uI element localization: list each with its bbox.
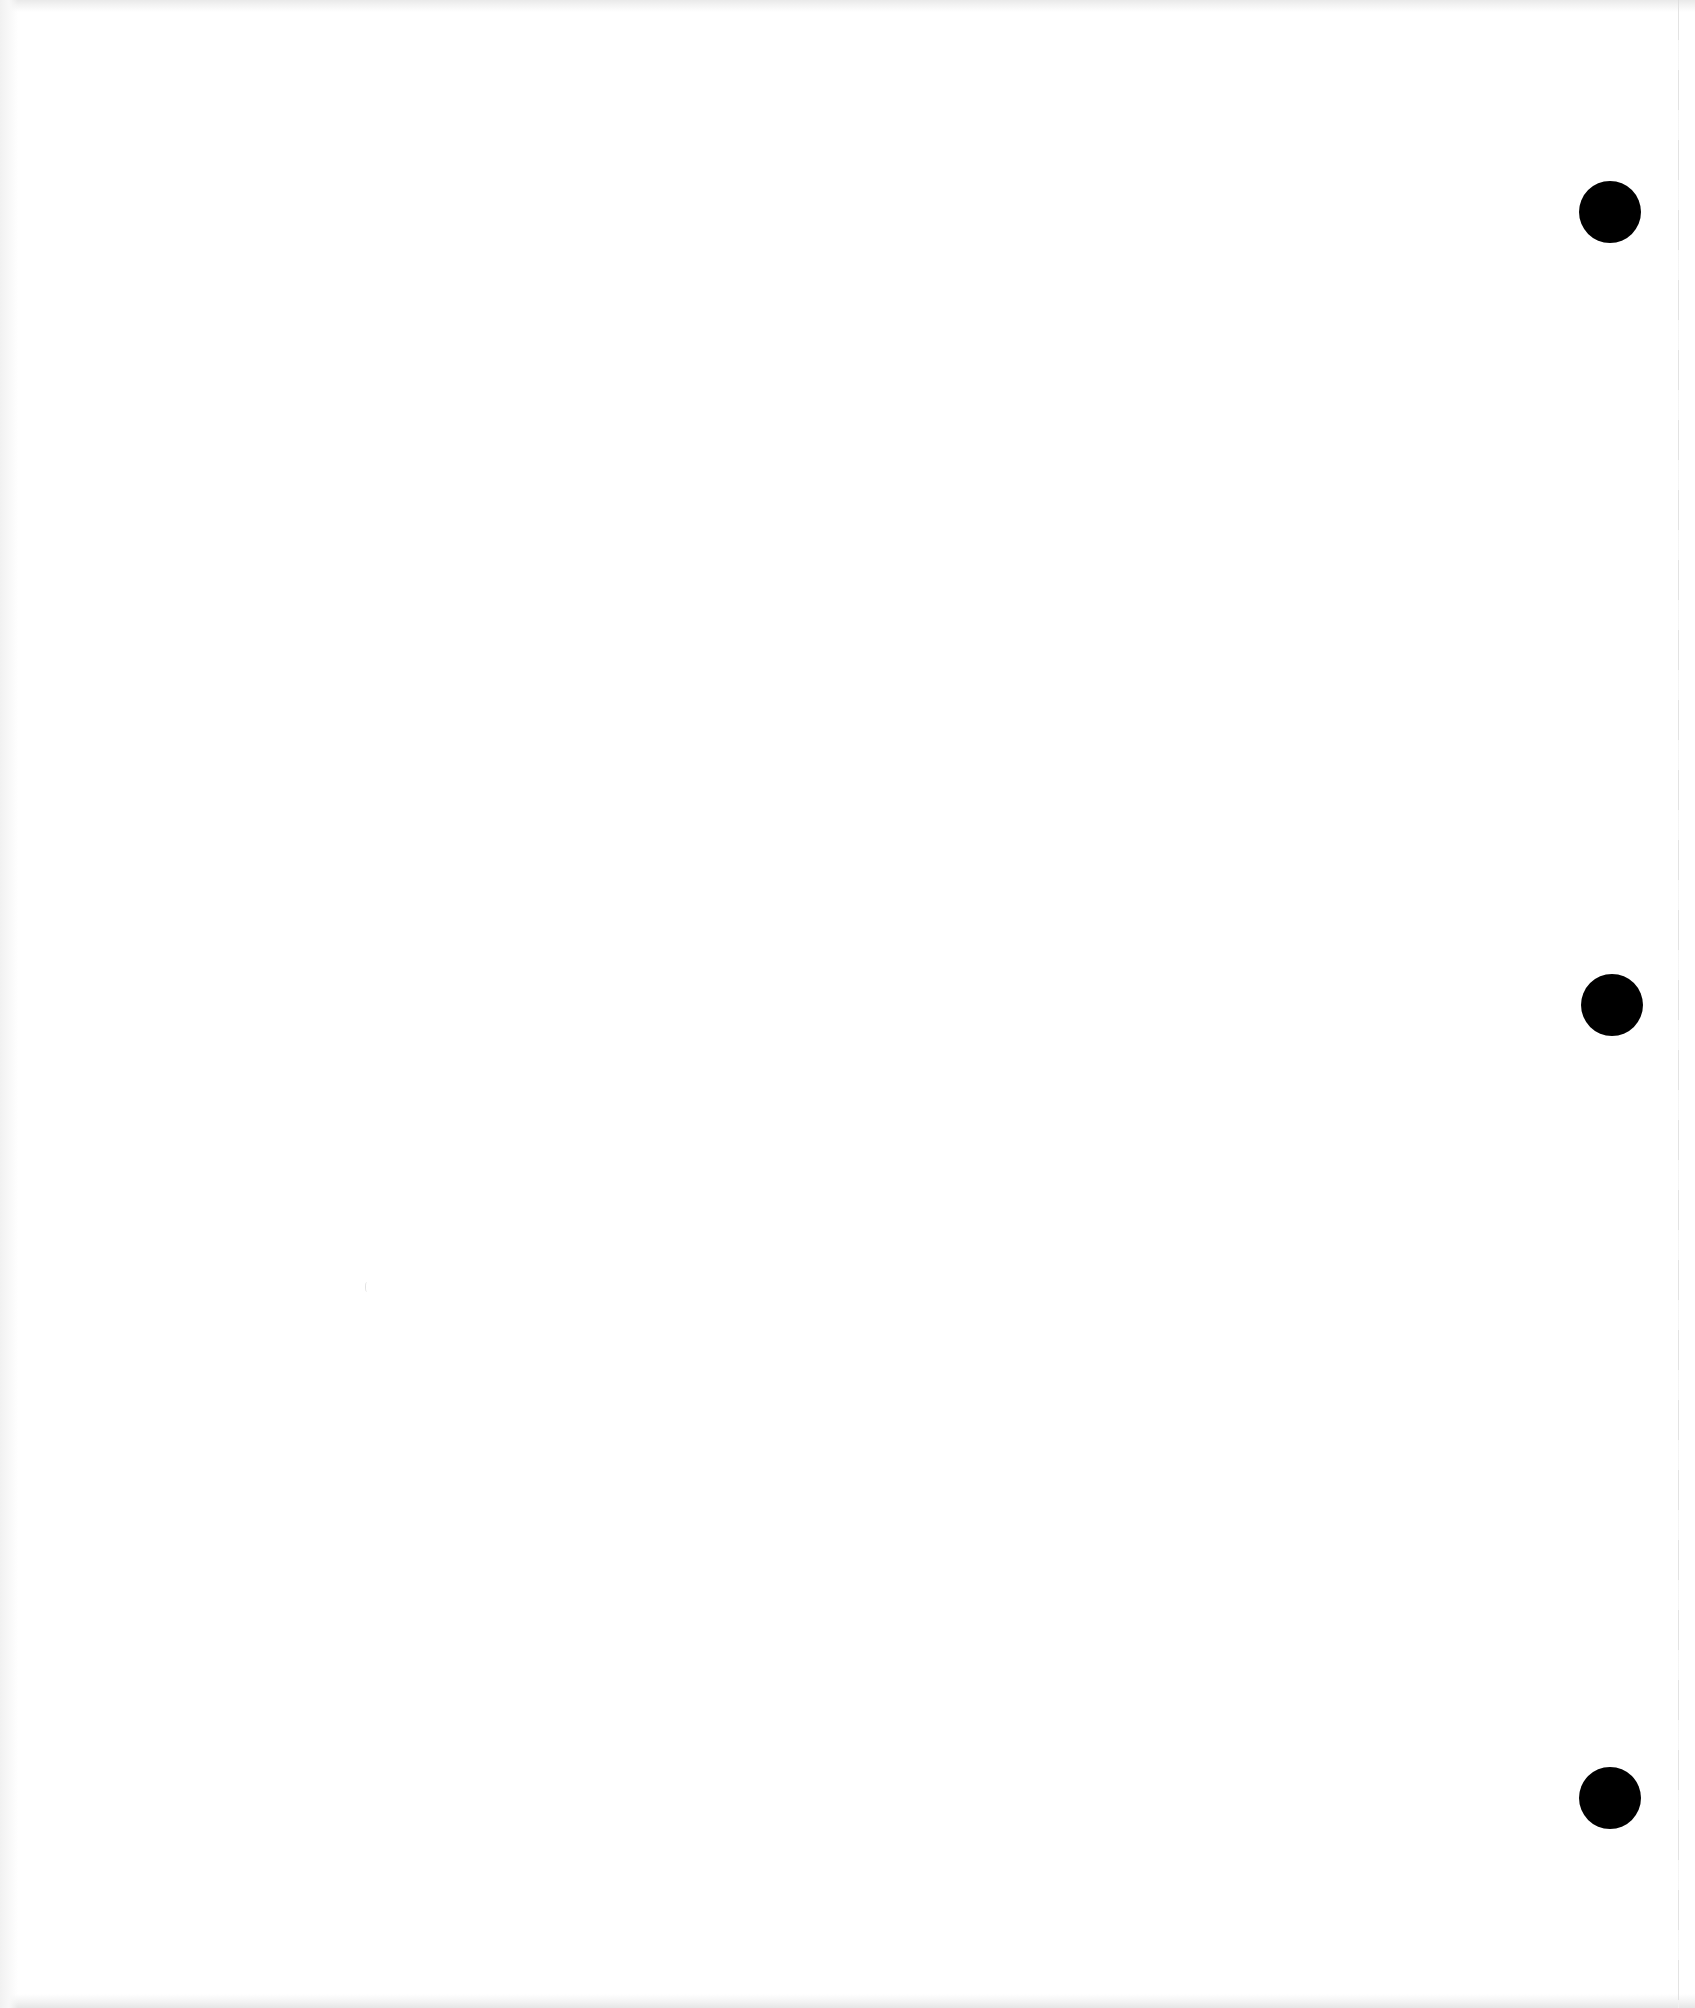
- punch-hole-bottom: [1579, 1767, 1641, 1829]
- scan-shadow-top: [0, 0, 1695, 12]
- scan-speck: [365, 1282, 369, 1292]
- punch-hole-middle: [1581, 974, 1643, 1036]
- scan-shadow-left: [0, 0, 18, 2008]
- page-edge-line: [1678, 0, 1679, 2008]
- blank-scanned-page: [0, 0, 1695, 2008]
- scan-shadow-bottom: [0, 1994, 1695, 2008]
- punch-hole-top: [1579, 181, 1641, 243]
